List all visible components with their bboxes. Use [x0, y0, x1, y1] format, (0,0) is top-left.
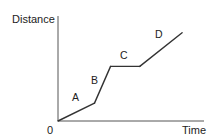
y-axis-label: Distance	[12, 13, 55, 25]
segment-label-a: A	[72, 91, 79, 103]
origin-label: 0	[47, 124, 53, 136]
segment-label-c: C	[120, 49, 128, 61]
x-axis-label: Time	[182, 124, 206, 136]
segment-label-b: B	[91, 74, 98, 86]
distance-time-chart: Distance Time 0 ABCD	[0, 0, 215, 139]
segment-label-d: D	[155, 28, 163, 40]
series-segment-1	[58, 103, 95, 121]
annotation-layer: ABCD	[72, 28, 163, 103]
series-layer	[58, 33, 182, 121]
